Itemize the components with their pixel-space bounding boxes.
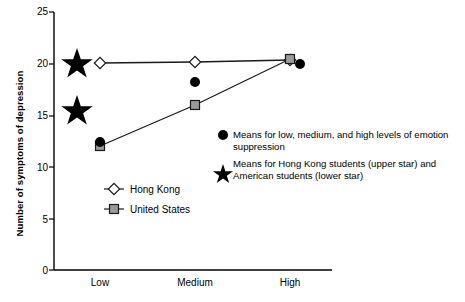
data-point-hk-medium — [189, 56, 200, 67]
legend-label-united-states: United States — [130, 204, 190, 215]
series-legend — [104, 183, 124, 213]
star-american-mean — [61, 95, 92, 125]
data-point-mean-low — [95, 137, 105, 147]
annotation-circle-note: Means for low, medium, and high levels o… — [233, 129, 461, 154]
annotation-markers — [213, 130, 233, 183]
legend-label-hong-kong: Hong Kong — [130, 184, 180, 195]
star-hong-kong-mean — [61, 48, 92, 78]
data-point-mean-medium — [190, 77, 200, 87]
data-point-mean-high — [295, 59, 305, 69]
annotation-star-note: Means for Hong Kong students (upper star… — [233, 158, 461, 183]
chart-figure: Number of symptoms of depression 25 20 1… — [0, 0, 465, 302]
series-hong-kong — [94, 54, 295, 68]
country-mean-stars — [61, 48, 92, 125]
annotation-circle-icon — [218, 130, 228, 140]
data-point-us-high — [286, 55, 295, 64]
data-point-us-medium — [191, 101, 200, 110]
legend-marker-united-states — [104, 205, 124, 214]
data-point-hk-low — [94, 57, 105, 68]
annotation-star-icon — [213, 164, 233, 183]
legend-marker-hong-kong — [104, 183, 124, 194]
